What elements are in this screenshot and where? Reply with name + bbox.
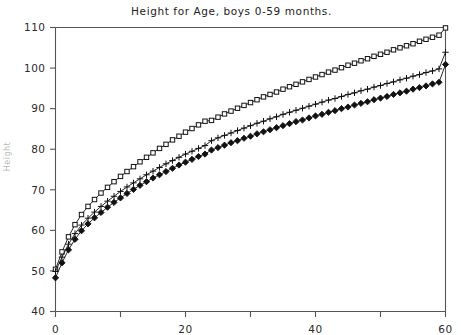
chart-container: Height for Age, boys 0-59 months. Height… — [0, 0, 463, 335]
data-series-lower — [52, 61, 448, 281]
plot-frame — [56, 28, 446, 312]
y-tick-label: 40 — [31, 305, 45, 317]
x-tick-label: 0 — [52, 323, 59, 335]
x-tick-label: 60 — [438, 323, 452, 335]
x-tick-label: 40 — [308, 323, 322, 335]
y-tick-label: 50 — [31, 265, 45, 277]
y-tick-label: 70 — [31, 184, 45, 196]
data-series-group — [52, 26, 448, 281]
x-tick-label: 20 — [178, 323, 192, 335]
y-tick-label: 110 — [24, 21, 46, 33]
y-tick-label: 80 — [31, 143, 45, 155]
axis-ticks — [50, 28, 446, 318]
data-series-upper — [53, 26, 447, 272]
y-tick-label: 90 — [31, 102, 45, 114]
data-series-median — [52, 49, 448, 274]
axis-tick-labels: 4050607080901001100204060 — [24, 21, 453, 334]
y-tick-label: 100 — [24, 62, 46, 74]
y-tick-label: 60 — [31, 224, 45, 236]
plot-area: 4050607080901001100204060 — [0, 0, 463, 335]
